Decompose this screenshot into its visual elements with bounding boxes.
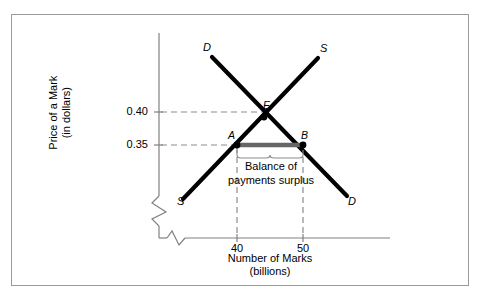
surplus-annotation-line2: payments surplus: [208, 174, 334, 188]
surplus-annotation-line1: Balance of: [208, 160, 334, 174]
y-axis-title-line2: (in dollars): [60, 33, 73, 193]
demand-label-top: D: [203, 42, 211, 53]
y-tick-label-040: 0.40: [104, 106, 148, 117]
y-axis-title: Price of a Mark (in dollars): [47, 33, 72, 193]
demand-label-bottom: D: [348, 196, 356, 207]
point-a-marker: [234, 142, 241, 149]
surplus-brace: [237, 150, 303, 158]
x-axis-break-icon: [167, 231, 185, 245]
x-axis-title: Number of Marks (billions): [200, 252, 340, 278]
point-e-marker: [261, 114, 268, 121]
diagram-canvas: Price of a Mark (in dollars) 0.40 0.35 4…: [0, 0, 482, 298]
y-axis-title-line1: Price of a Mark: [47, 33, 60, 193]
y-tick-label-035: 0.35: [104, 139, 148, 150]
point-e-label: E: [263, 100, 270, 111]
y-axis-break-icon: [152, 196, 166, 226]
supply-label-bottom: S: [177, 196, 184, 207]
surplus-annotation: Balance of payments surplus: [208, 160, 334, 188]
x-axis-title-line1: Number of Marks: [200, 252, 340, 265]
point-a-label: A: [228, 130, 235, 141]
point-b-marker: [300, 142, 307, 149]
supply-label-top: S: [320, 43, 327, 54]
x-axis-title-line2: (billions): [200, 265, 340, 278]
point-b-label: B: [301, 130, 308, 141]
